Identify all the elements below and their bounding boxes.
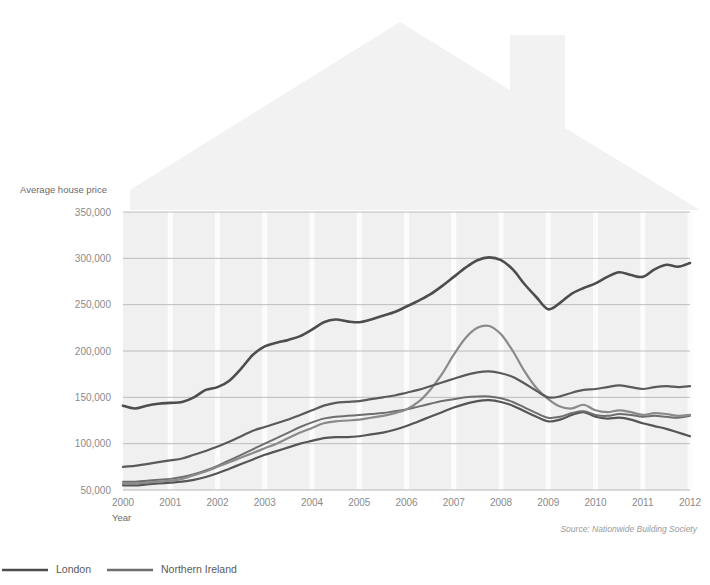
y-axis-title: Average house price — [20, 184, 107, 195]
x-tick-label: 2004 — [301, 497, 324, 508]
y-tick-label: 100,000 — [75, 438, 112, 449]
legend-label: Northern Ireland — [161, 563, 237, 575]
y-tick-label: 150,000 — [75, 392, 112, 403]
y-tick-label: 250,000 — [75, 299, 112, 310]
x-tick-label: 2010 — [584, 497, 607, 508]
x-tick-label: 2005 — [348, 497, 371, 508]
x-tick-label: 2006 — [395, 497, 418, 508]
chart-container: 350,000300,000250,000200,000150,000100,0… — [0, 0, 710, 585]
x-tick-label: 2011 — [632, 497, 654, 508]
legend-label: London — [56, 563, 91, 575]
x-tick-label: 2000 — [112, 497, 135, 508]
house-price-line-chart: 350,000300,000250,000200,000150,000100,0… — [0, 0, 710, 585]
x-tick-label: 2007 — [443, 497, 466, 508]
y-tick-label: 200,000 — [75, 346, 112, 357]
y-tick-label: 50,000 — [80, 485, 111, 496]
source-note: Source: Nationwide Building Society — [560, 524, 697, 534]
chart-legend: LondonNorthern Ireland — [2, 563, 237, 575]
x-axis-title: Year — [112, 512, 131, 523]
y-axis-tick-labels: 350,000300,000250,000200,000150,000100,0… — [75, 207, 112, 496]
x-axis-tick-labels: 2000200120022003200420052006200720082009… — [112, 497, 702, 508]
y-tick-label: 350,000 — [75, 207, 112, 218]
y-tick-label: 300,000 — [75, 253, 112, 264]
x-tick-label: 2001 — [159, 497, 182, 508]
x-tick-label: 2003 — [254, 497, 277, 508]
x-tick-label: 2012 — [679, 497, 702, 508]
x-tick-label: 2008 — [490, 497, 513, 508]
x-tick-label: 2009 — [537, 497, 560, 508]
house-roof-watermark — [130, 22, 700, 210]
x-tick-label: 2002 — [206, 497, 229, 508]
